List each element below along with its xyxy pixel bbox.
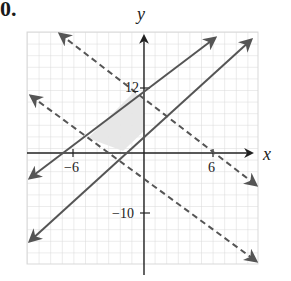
coordinate-graph: y x −6 6 12 −10 — [0, 0, 291, 281]
y-tick-label-12: 12 — [125, 80, 139, 95]
y-tick-label-neg10: −10 — [112, 206, 134, 221]
x-tick-label-6: 6 — [208, 160, 215, 175]
x-axis-label: x — [262, 144, 271, 164]
grid — [27, 32, 258, 264]
x-tick-label-neg6: −6 — [64, 160, 79, 175]
y-axis-label: y — [135, 4, 145, 24]
